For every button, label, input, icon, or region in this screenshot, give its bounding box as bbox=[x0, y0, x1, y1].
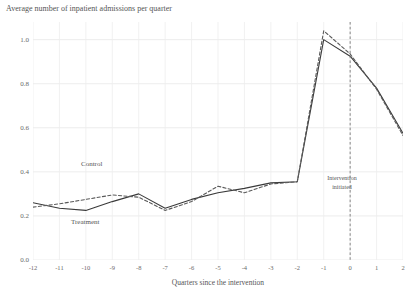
y-tick-label: 0.4 bbox=[7, 168, 29, 176]
chart-title: Average number of inpatient admissions p… bbox=[6, 4, 172, 13]
x-tick-label: 0 bbox=[339, 264, 361, 271]
x-tick-label: 1 bbox=[366, 264, 388, 271]
intervention-annotation: Intervention initiated bbox=[315, 174, 369, 192]
intervention-annotation-line2: initiated bbox=[315, 183, 369, 192]
x-tick-label: -5 bbox=[207, 264, 229, 271]
x-axis-label: Quarters since the intervention bbox=[33, 278, 403, 287]
y-tick-label: 0.0 bbox=[7, 256, 29, 264]
x-tick-label: -7 bbox=[154, 264, 176, 271]
chart-container: Average number of inpatient admissions p… bbox=[0, 0, 415, 289]
plot-area: 0.00.20.40.60.81.0 -12-11-10-9-8-7-6-5-4… bbox=[33, 22, 403, 260]
x-tick-label: -9 bbox=[101, 264, 123, 271]
x-tick-label: -4 bbox=[233, 264, 255, 271]
intervention-annotation-line1: Intervention bbox=[315, 174, 369, 183]
y-tick-label: 0.8 bbox=[7, 80, 29, 88]
y-tick-label: 0.2 bbox=[7, 212, 29, 220]
x-tick-label: -6 bbox=[181, 264, 203, 271]
series-label-control: Control bbox=[81, 160, 102, 168]
x-tick-label: -1 bbox=[313, 264, 335, 271]
y-tick-label: 0.6 bbox=[7, 124, 29, 132]
x-tick-label: -11 bbox=[48, 264, 70, 271]
x-tick-label: -10 bbox=[75, 264, 97, 271]
series-label-treatment: Treatment bbox=[71, 218, 100, 226]
x-tick-label: -12 bbox=[22, 264, 44, 271]
y-tick-label: 1.0 bbox=[7, 36, 29, 44]
x-tick-label: -8 bbox=[128, 264, 150, 271]
x-tick-label: -2 bbox=[286, 264, 308, 271]
x-tick-label: -3 bbox=[260, 264, 282, 271]
x-tick-label: 2 bbox=[392, 264, 414, 271]
